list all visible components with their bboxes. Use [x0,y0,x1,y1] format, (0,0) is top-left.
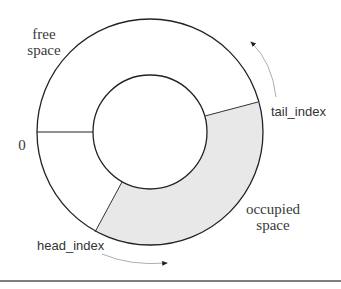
free-space-label-line1: free [32,26,56,42]
head-index-label: head_index [37,238,105,253]
inner-ring [93,75,207,189]
tail-index-label: tail_index [271,104,326,119]
occupied-space-label-line1: occupied [246,201,301,217]
circular-buffer-diagram: free space 0 tail_index head_index occup… [0,0,341,289]
zero-index-label: 0 [18,137,26,153]
free-space-label-line2: space [27,42,61,58]
occupied-space-label-line2: space [256,217,290,233]
head-direction-arrow [102,254,167,264]
